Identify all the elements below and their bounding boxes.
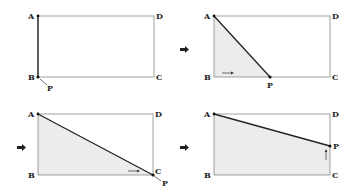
panel-1: A B C D P	[27, 11, 163, 93]
label-d: D	[156, 11, 163, 21]
point-p	[328, 144, 331, 147]
label-c: C	[156, 72, 162, 82]
label-c: C	[332, 170, 338, 180]
label-p: P	[333, 141, 339, 151]
label-a: A	[203, 11, 211, 21]
label-a: A	[27, 109, 35, 119]
label-a: A	[27, 11, 35, 21]
label-p: P	[162, 178, 168, 188]
point-a	[37, 15, 40, 18]
point-a	[213, 15, 216, 18]
label-b: B	[28, 170, 35, 180]
label-c: C	[332, 72, 338, 82]
label-p: P	[47, 83, 53, 93]
panel-3: A B C D P	[27, 109, 168, 188]
rectangle-abcd	[38, 16, 154, 77]
right-arrow-icon	[180, 46, 189, 53]
panel-2: A B C D P	[203, 11, 339, 90]
right-arrow-icon	[180, 144, 189, 151]
point-p	[36, 75, 39, 78]
panel-4: A B C D P	[203, 109, 339, 180]
point-a	[37, 113, 40, 116]
label-d: D	[332, 109, 339, 119]
label-b: B	[28, 72, 35, 82]
shaded-trapezoid	[214, 114, 330, 175]
label-a: A	[203, 109, 211, 119]
right-arrow-icon	[17, 144, 26, 151]
label-d: D	[332, 11, 339, 21]
point-a	[213, 113, 216, 116]
label-b: B	[204, 72, 211, 82]
diagram-canvas: A B C D P A B C D P	[0, 0, 354, 196]
point-p	[268, 75, 271, 78]
label-c: C	[155, 166, 161, 176]
label-p: P	[267, 80, 273, 90]
pointer-line	[40, 79, 47, 85]
label-b: B	[204, 170, 211, 180]
label-d: D	[155, 109, 162, 119]
